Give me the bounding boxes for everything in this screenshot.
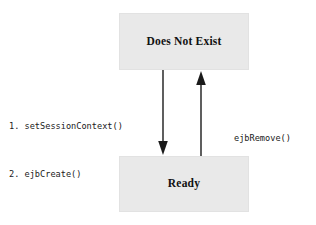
state-box-ready: Ready xyxy=(119,156,249,212)
diagram-canvas: Does Not Exist Ready 1. setSessionContex… xyxy=(0,0,316,225)
state-box-does-not-exist: Does Not Exist xyxy=(119,13,249,70)
transition-label-create: 1. setSessionContext() 2. ejbCreate() xyxy=(9,86,123,214)
arrow-remove-up xyxy=(196,71,206,156)
transition-label-create-line-2: 2. ejbCreate() xyxy=(9,166,123,182)
transition-label-remove-line-1: ejbRemove() xyxy=(234,130,291,146)
transition-label-create-line-1: 1. setSessionContext() xyxy=(9,118,123,134)
arrow-remove-head-icon xyxy=(196,71,206,85)
arrow-create-head-icon xyxy=(158,141,168,155)
state-label-does-not-exist: Does Not Exist xyxy=(147,36,222,48)
transition-label-remove: ejbRemove() xyxy=(234,98,291,178)
state-label-ready: Ready xyxy=(168,178,200,190)
arrow-create-down xyxy=(158,70,168,155)
